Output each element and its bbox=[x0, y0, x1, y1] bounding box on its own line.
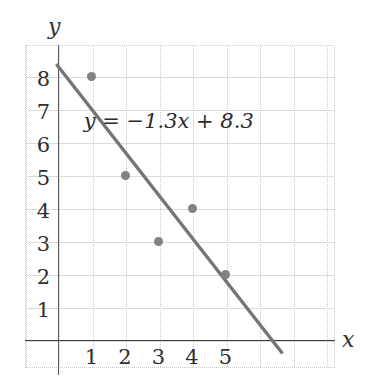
data-layer bbox=[0, 0, 375, 382]
data-point bbox=[87, 72, 96, 81]
data-point bbox=[121, 171, 130, 180]
data-point bbox=[188, 204, 197, 213]
data-point bbox=[221, 270, 230, 279]
trendline-equation-label: y = −1.3x + 8.3 bbox=[84, 111, 254, 132]
trendline bbox=[56, 64, 282, 354]
data-point bbox=[154, 237, 163, 246]
scatter-plot-figure: y x 1 2 3 4 5 6 7 8 1 2 3 4 5 y = −1.3x … bbox=[0, 0, 375, 382]
